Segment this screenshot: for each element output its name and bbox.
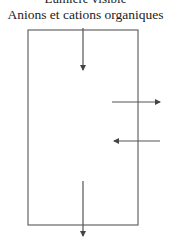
- diagram-canvas: [0, 0, 171, 240]
